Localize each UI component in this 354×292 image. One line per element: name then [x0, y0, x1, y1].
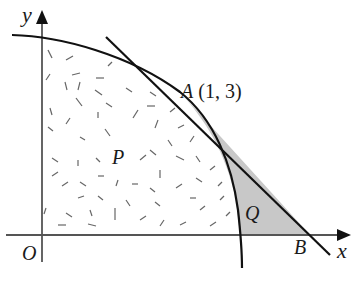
tangent-line: [106, 37, 330, 255]
y-axis-arrow-icon: [36, 10, 48, 24]
point-a-coords: (1, 3): [198, 80, 241, 102]
curve: [12, 35, 242, 268]
point-a-label: A (1, 3): [181, 81, 242, 101]
region-q-label: Q: [245, 203, 259, 223]
point-b-label: B: [294, 237, 306, 257]
y-axis-label: y: [22, 4, 32, 26]
origin-label: O: [22, 243, 36, 263]
region-p-label: P: [112, 147, 124, 167]
x-axis-label: x: [337, 240, 347, 262]
figure: y x O A (1, 3) P Q B: [0, 0, 354, 292]
point-a-name: A: [181, 80, 193, 102]
region-p-dashes: [44, 50, 230, 226]
